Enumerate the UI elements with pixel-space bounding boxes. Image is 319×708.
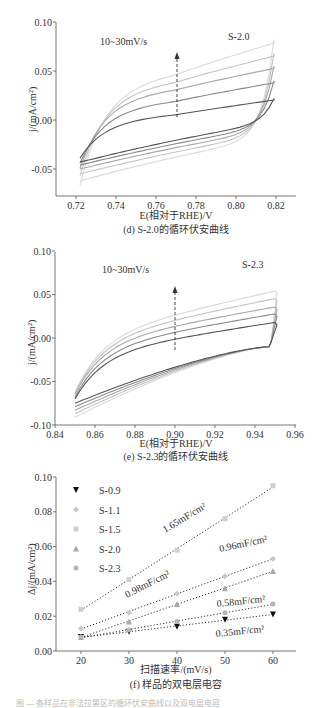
diamond-marker-icon: [174, 591, 180, 597]
y-tick-label: -0.05: [30, 376, 51, 387]
triangle-down-marker-icon: [73, 487, 79, 493]
chart-d: 0.100.050.00-0.05 0.720.740.760.780.800.…: [27, 17, 296, 237]
cv-curves: [75, 291, 277, 417]
slope-label: 0.98mF/cm²: [123, 568, 172, 600]
chart-caption: (f) 样品的双电层电容: [130, 678, 223, 691]
diamond-marker-icon: [222, 573, 228, 579]
arrow-head-icon: [173, 286, 178, 293]
figure-canvas: 0.100.050.00-0.05 0.720.740.760.780.800.…: [0, 0, 319, 708]
triangle-up-marker-icon: [270, 568, 276, 574]
square-marker-icon: [127, 577, 132, 582]
circle-marker-icon: [175, 619, 180, 624]
sample-label: S-2.3: [242, 259, 263, 270]
x-ticks: 0.720.740.760.780.800.82: [67, 196, 285, 211]
chart-caption: (d) S-2.0的循环伏安曲线: [123, 223, 229, 236]
triangle-up-marker-icon: [174, 601, 180, 607]
cv-curve: [75, 291, 277, 417]
circle-marker-icon: [74, 566, 79, 571]
y-tick-label: 0.10: [35, 472, 53, 483]
square-marker-icon: [175, 548, 180, 553]
legend-label: S-0.9: [99, 485, 120, 496]
triangle-up-marker-icon: [222, 585, 228, 591]
x-tick-label: 0.84: [46, 429, 64, 440]
sample-label: S-2.0: [228, 31, 249, 42]
x-axis-label: E(相对于RHE)/V: [140, 437, 214, 450]
chart-e: 0.100.050.00-0.05-0.10 0.840.860.880.900…: [26, 246, 304, 464]
diamond-marker-icon: [126, 610, 132, 616]
circle-marker-icon: [127, 628, 132, 633]
circle-marker-icon: [223, 610, 228, 615]
legend: S-0.9S-1.1S-1.5S-2.0S-2.3: [73, 485, 120, 574]
x-axis-label: E(相对于RHE)/V: [140, 209, 214, 222]
square-marker-icon: [79, 607, 84, 612]
figure-footer-caption: 图 — 各样品在非法拉第区的循环伏安曲线以及双电层电容: [0, 697, 319, 708]
y-tick-label: -0.05: [31, 164, 52, 175]
y-tick-label: 0.10: [35, 17, 53, 28]
scan-rate-label: 10~30mV/s: [102, 264, 149, 275]
y-axis-label: j/(mA/cm²): [26, 320, 38, 366]
circle-marker-icon: [79, 635, 84, 640]
square-marker-icon: [271, 483, 276, 488]
y-tick-label: 0.02: [35, 611, 53, 622]
circle-marker-icon: [271, 602, 276, 607]
x-tick-label: 0.82: [267, 200, 285, 211]
y-tick-label: 0.08: [35, 506, 53, 517]
x-tick-label: 60: [268, 655, 278, 666]
y-tick-label: 0.05: [34, 289, 52, 300]
slope-label: 0.35mF/cm²: [215, 623, 265, 639]
y-tick-label: 0.10: [34, 246, 52, 257]
x-tick-label: 0.74: [107, 200, 125, 211]
x-tick-label: 50: [220, 655, 230, 666]
triangle-down-marker-icon: [222, 617, 228, 623]
x-tick-label: 0.72: [67, 200, 85, 211]
triangle-down-marker-icon: [270, 611, 276, 617]
cv-curve: [75, 322, 277, 403]
y-tick-label: 0.05: [35, 66, 53, 77]
legend-label: S-2.3: [99, 563, 120, 574]
slope-label: 0.96mF/cm²: [218, 533, 268, 554]
cv-curve: [80, 81, 274, 165]
x-tick-label: 0.96: [286, 429, 304, 440]
legend-label: S-1.1: [99, 505, 120, 516]
diamond-marker-icon: [73, 507, 79, 513]
triangle-up-marker-icon: [73, 546, 79, 552]
arrow-head-icon: [175, 52, 180, 59]
legend-label: S-1.5: [99, 524, 120, 535]
cv-curve: [75, 314, 277, 407]
diamond-marker-icon: [78, 625, 84, 631]
y-tick-label: 0.04: [35, 576, 53, 587]
y-axis-label: Δj/(mA/cm²): [26, 543, 38, 595]
square-marker-icon: [223, 516, 228, 521]
y-axis-label: j/(mA/cm²): [27, 87, 39, 133]
square-marker-icon: [74, 527, 79, 532]
diamond-marker-icon: [270, 556, 276, 562]
x-axis-label: 扫描速率/(mV/s): [140, 663, 211, 676]
chart-caption: (e) S-2.3的循环伏安曲线: [124, 450, 229, 463]
x-tick-label: 20: [76, 655, 86, 666]
legend-label: S-2.0: [99, 544, 120, 555]
x-tick-label: 30: [124, 655, 134, 666]
scan-rate-label: 10~30mV/s: [100, 36, 147, 47]
y-ticks: 0.100.080.060.040.020.00: [35, 472, 57, 657]
chart-f: 0.100.080.060.040.020.00 2030405060 S-0.…: [26, 472, 296, 692]
y-tick-label: 0.06: [35, 541, 53, 552]
y-tick-label: 0.00: [35, 646, 53, 657]
slope-label: 1.65mF/cm²: [160, 500, 208, 535]
cv-curve: [75, 307, 277, 410]
x-tick-label: 0.80: [227, 200, 245, 211]
triangle-down-marker-icon: [174, 624, 180, 630]
x-tick-label: 0.94: [246, 429, 264, 440]
x-tick-label: 0.86: [86, 429, 104, 440]
